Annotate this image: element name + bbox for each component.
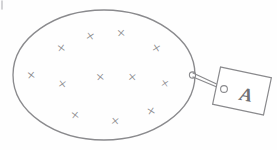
- diagram-canvas: × × × × × × × × × × × × A: [0, 0, 277, 150]
- tag-eyelet: [221, 86, 228, 93]
- field-mark: ×: [26, 68, 36, 84]
- field-mark: ×: [116, 26, 125, 42]
- field-mark: ×: [70, 108, 80, 124]
- field-mark: ×: [127, 70, 136, 86]
- diagram-svg: [0, 0, 277, 150]
- field-mark: ×: [95, 70, 105, 86]
- field-mark: ×: [110, 114, 120, 130]
